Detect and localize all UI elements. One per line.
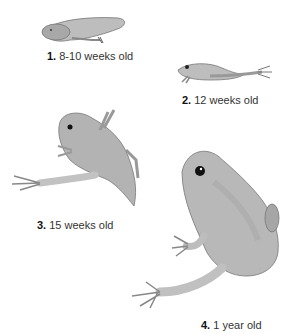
adult-frog-illustration xyxy=(0,0,289,334)
stage-4-label: 4. 1 year old xyxy=(201,319,262,331)
